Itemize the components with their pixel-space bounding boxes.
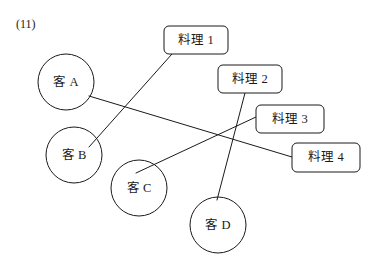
diagram-page: (11) 客 A 客 B 客 C 客 D: [0, 0, 374, 272]
node-dish-1[interactable]: 料理 1: [164, 26, 228, 54]
guest-b-label: 客 B: [62, 147, 86, 162]
node-guest-b[interactable]: 客 B: [46, 127, 102, 183]
dish-2-label: 料理 2: [232, 72, 267, 86]
node-dish-4[interactable]: 料理 4: [292, 143, 360, 172]
node-guest-d[interactable]: 客 D: [190, 197, 246, 253]
node-guest-c[interactable]: 客 C: [111, 160, 167, 216]
guest-node-group: 客 A 客 B 客 C 客 D: [38, 54, 246, 253]
node-guest-a[interactable]: 客 A: [38, 54, 94, 110]
dish-1-label: 料理 1: [178, 33, 213, 47]
guest-a-label: 客 A: [53, 74, 78, 89]
matching-diagram-canvas: (11) 客 A 客 B 客 C 客 D: [0, 0, 374, 272]
node-dish-3[interactable]: 料理 3: [256, 105, 324, 133]
dish-4-label: 料理 4: [308, 150, 344, 164]
guest-c-label: 客 C: [127, 180, 151, 195]
dish-3-label: 料理 3: [272, 112, 307, 126]
node-dish-2[interactable]: 料理 2: [218, 65, 282, 93]
edge-guest-d-dish-2[interactable]: [217, 93, 245, 200]
question-number-label: (11): [16, 17, 36, 31]
dish-node-group: 料理 1 料理 2 料理 3 料理 4: [164, 26, 360, 172]
edge-guest-b-dish-1[interactable]: [89, 54, 172, 147]
guest-d-label: 客 D: [205, 217, 230, 232]
